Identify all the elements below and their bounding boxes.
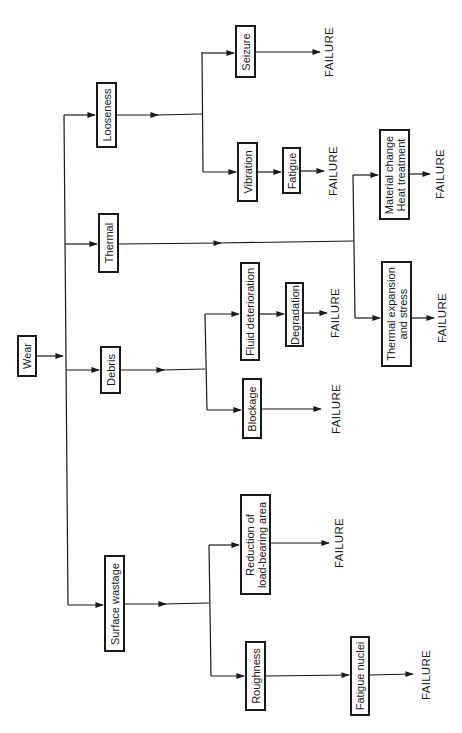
node-roughness: Roughness [245, 641, 266, 711]
failure-thermal-expansion: FAILURE [436, 293, 448, 343]
node-material-change-label: Material change Heat treatment [383, 135, 407, 213]
node-reduction-load-bearing: Reduction of load-bearing area [240, 494, 271, 595]
node-seizure: Seizure [235, 25, 256, 78]
node-wear-label: Wear [21, 343, 33, 369]
node-fatigue: Fatigue [282, 147, 301, 194]
failure-blockage: FAILURE [330, 384, 342, 434]
node-thermal: Thermal [98, 213, 119, 273]
node-roughness-label: Roughness [250, 648, 262, 704]
node-thermal-expansion-line2: and stress [397, 289, 409, 340]
node-reduction-line2: load-bearing area [256, 501, 268, 587]
node-reduction-line1: Reduction of [244, 514, 256, 576]
node-thermal-label: Thermal [103, 223, 115, 263]
node-debris: Debris [100, 346, 121, 394]
failure-reduction: FAILURE [333, 518, 345, 568]
node-fluid-deterioration: Fluid deterioration [240, 262, 260, 361]
node-debris-label: Debris [105, 354, 117, 386]
node-material-change-line2: Heat treatment [395, 138, 407, 211]
node-thermal-expansion: Thermal expansion and stress [381, 261, 412, 367]
failure-degradation: FAILURE [329, 288, 341, 338]
node-vibration: Vibration [237, 142, 258, 202]
failure-fatigue-nuclei: FAILURE [420, 650, 432, 700]
node-degradation-label: Degradation [289, 285, 301, 345]
node-reduction-label: Reduction of load-bearing area [244, 501, 268, 587]
node-vibration-label: Vibration [242, 150, 254, 193]
node-fluid-deterioration-label: Fluid deterioration [244, 267, 256, 355]
node-fatigue-label: Fatigue [286, 152, 298, 189]
node-material-change: Material change Heat treatment [379, 129, 410, 220]
node-thermal-expansion-line1: Thermal expansion [385, 267, 397, 361]
node-seizure-label: Seizure [240, 33, 252, 70]
node-surface-wastage: Surface wastage [104, 555, 125, 652]
node-wear: Wear [17, 335, 37, 377]
failure-fatigue: FAILURE [327, 146, 339, 196]
node-material-change-line1: Material change [383, 135, 395, 213]
failure-seizure: FAILURE [323, 27, 335, 77]
node-fatigue-nuclei: Fatigue nuclei [350, 636, 370, 716]
node-looseness-label: Looseness [101, 88, 113, 141]
node-surface-wastage-label: Surface wastage [109, 563, 121, 645]
node-blockage: Blockage [242, 378, 262, 439]
node-thermal-expansion-label: Thermal expansion and stress [385, 267, 409, 361]
node-blockage-label: Blockage [246, 386, 258, 431]
node-degradation: Degradation [285, 282, 304, 347]
node-looseness: Looseness [96, 82, 117, 148]
failure-material-change: FAILURE [434, 149, 446, 199]
node-fatigue-nuclei-label: Fatigue nuclei [354, 642, 366, 711]
